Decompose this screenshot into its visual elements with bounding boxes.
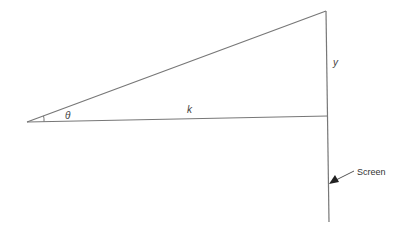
angle-arc xyxy=(44,116,45,122)
base-label-k: k xyxy=(187,104,193,115)
hypotenuse-line xyxy=(27,11,326,122)
height-label-y: y xyxy=(332,57,339,68)
base-line-k xyxy=(27,116,328,122)
angle-label-theta: θ xyxy=(65,110,71,121)
screen-arrow-line xyxy=(336,171,354,180)
screen-label: Screen xyxy=(357,167,386,177)
arrowhead-icon xyxy=(329,175,339,184)
triangle-diagram: θ k y Screen xyxy=(0,0,409,240)
